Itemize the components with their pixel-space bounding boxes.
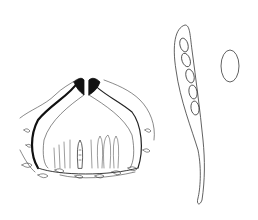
ascospore-drawing bbox=[221, 50, 239, 82]
ascus-drawing bbox=[174, 25, 204, 204]
illustration-canvas bbox=[0, 0, 258, 220]
perithecium-drawing bbox=[20, 78, 154, 178]
